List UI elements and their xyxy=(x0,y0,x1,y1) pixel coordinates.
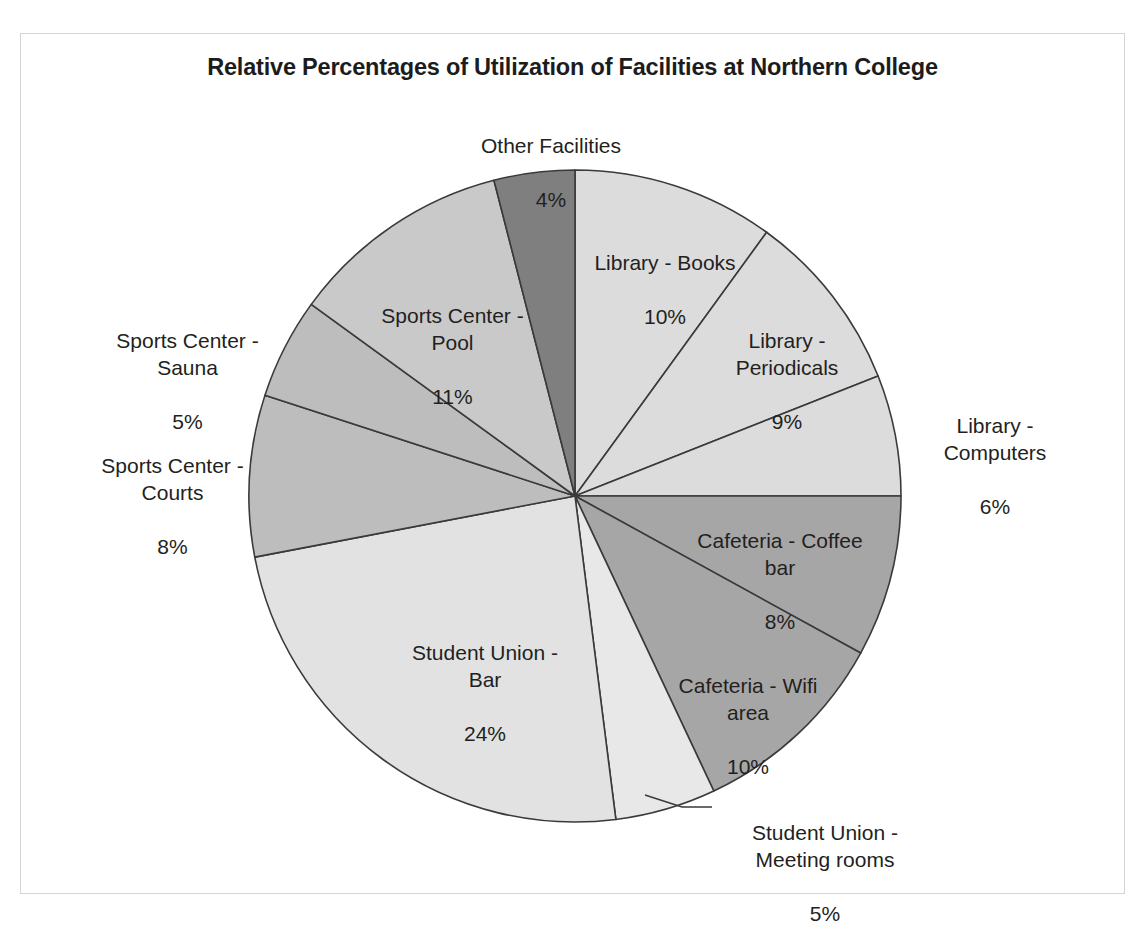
pie-chart: Other Facilities 4% Library - Books 10% … xyxy=(0,0,1148,925)
pie-svg xyxy=(0,0,1148,925)
pie-slice-group xyxy=(249,170,901,822)
